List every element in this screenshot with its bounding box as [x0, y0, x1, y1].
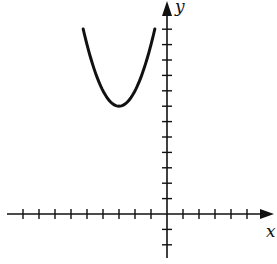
y-axis-arrow-icon	[162, 1, 172, 16]
parabola-graph: x y	[0, 0, 277, 264]
axes	[7, 12, 262, 258]
y-axis-label: y	[174, 0, 185, 16]
x-axis-label: x	[266, 221, 276, 241]
parabola-curve	[83, 29, 155, 106]
x-axis-arrow-icon	[260, 209, 274, 219]
